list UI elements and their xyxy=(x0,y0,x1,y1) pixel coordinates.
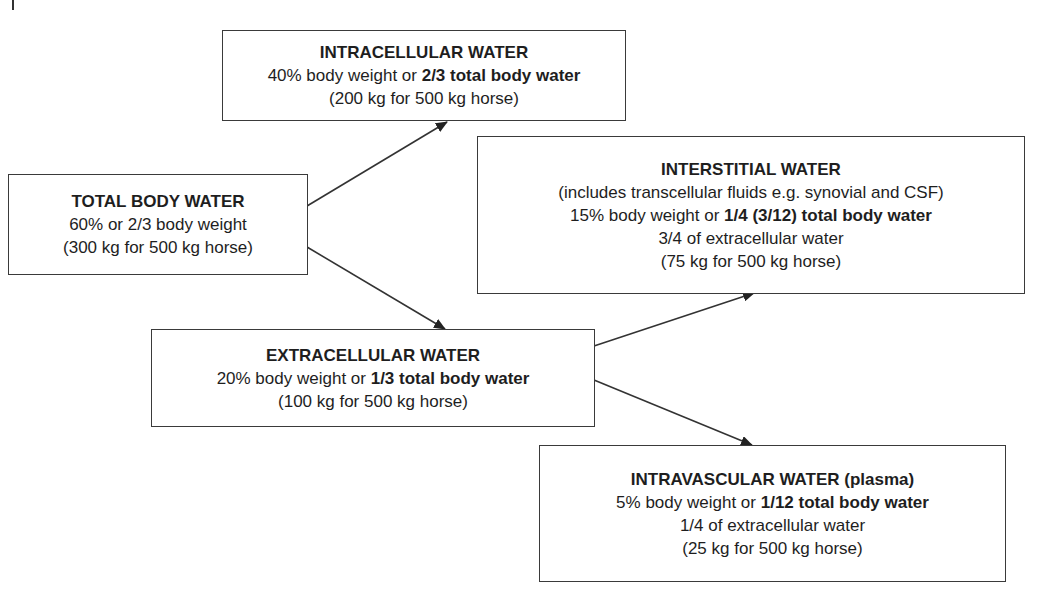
intracellular-water-box: INTRACELLULAR WATER 40% body weight or 2… xyxy=(222,30,626,121)
box-line: 1/4 of extracellular water xyxy=(680,514,865,537)
box-title: EXTRACELLULAR WATER xyxy=(266,344,480,367)
arrow-total-to-extracellular xyxy=(307,247,445,329)
box-title: INTRACELLULAR WATER xyxy=(320,41,528,64)
box-line: (300 kg for 500 kg horse) xyxy=(63,236,253,259)
arrow-total-to-intracellular xyxy=(307,122,447,206)
box-line: (200 kg for 500 kg horse) xyxy=(329,87,519,110)
arrow-extracellular-to-interstitial xyxy=(594,293,754,346)
box-line: 3/4 of extracellular water xyxy=(658,227,843,250)
total-body-water-box: TOTAL BODY WATER 60% or 2/3 body weight … xyxy=(8,174,308,275)
box-line: 20% body weight or 1/3 total body water xyxy=(217,367,530,390)
arrow-extracellular-to-intravascular xyxy=(594,380,752,445)
interstitial-water-box: INTERSTITIAL WATER (includes transcellul… xyxy=(477,136,1025,294)
box-line: (25 kg for 500 kg horse) xyxy=(682,537,862,560)
box-line: 40% body weight or 2/3 total body water xyxy=(268,64,581,87)
box-line: 60% or 2/3 body weight xyxy=(69,213,247,236)
box-title: INTRAVASCULAR WATER (plasma) xyxy=(631,468,914,491)
intravascular-water-box: INTRAVASCULAR WATER (plasma) 5% body wei… xyxy=(539,445,1006,582)
box-line: (100 kg for 500 kg horse) xyxy=(278,390,468,413)
extracellular-water-box: EXTRACELLULAR WATER 20% body weight or 1… xyxy=(151,329,595,427)
box-line: 5% body weight or 1/12 total body water xyxy=(616,491,929,514)
box-line: (75 kg for 500 kg horse) xyxy=(661,250,841,273)
box-line: (includes transcellular fluids e.g. syno… xyxy=(558,181,944,204)
box-title: TOTAL BODY WATER xyxy=(71,190,244,213)
box-line: 15% body weight or 1/4 (3/12) total body… xyxy=(570,204,932,227)
box-title: INTERSTITIAL WATER xyxy=(661,158,841,181)
